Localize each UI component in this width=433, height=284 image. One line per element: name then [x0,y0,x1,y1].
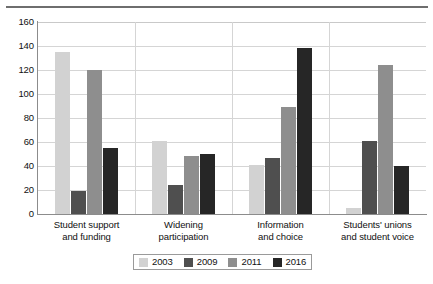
bar-2009-group-3 [265,158,280,214]
legend-entry-2011: 2011 [228,257,261,267]
bar-2011-group-1 [87,70,102,214]
y-tick-label-140: 140 [4,41,34,51]
group-separator-2 [232,22,233,214]
bar-2011-group-3 [281,107,296,214]
group-separator-1 [135,22,136,214]
bar-2016-group-2 [200,154,215,214]
group-separator-3 [329,22,330,214]
legend-entry-2003: 2003 [139,257,173,267]
legend-entry-2009: 2009 [184,257,218,267]
y-tick-label-120: 120 [4,65,34,75]
plot-area [38,22,426,214]
legend-label-2011: 2011 [241,257,261,267]
bar-2003-group-1 [55,52,70,214]
y-tick-label-0: 0 [4,209,34,219]
bar-2016-group-1 [103,148,118,214]
legend-entry-2016: 2016 [273,257,307,267]
legend-swatch-2016 [273,258,282,267]
bar-2009-group-4 [362,141,377,214]
x-category-label-4: Students' unionsand student voice [321,219,433,242]
legend-swatch-2009 [184,258,193,267]
y-tick-label-20: 20 [4,185,34,195]
y-tick-label-100: 100 [4,89,34,99]
x-label-line: Students' unions [321,219,433,231]
legend-label-2009: 2009 [197,257,218,267]
y-tick-label-40: 40 [4,161,34,171]
y-tick-label-60: 60 [4,137,34,147]
bar-2003-group-4 [346,208,361,214]
y-axis-tick-labels: 020406080100120140160 [0,22,34,214]
bar-chart-figure: 020406080100120140160 2003200920112016 S… [0,0,433,284]
bar-2011-group-2 [184,156,199,214]
legend-swatch-2011 [228,258,237,267]
bar-2009-group-1 [71,191,86,214]
legend-swatch-2003 [139,258,148,267]
chart-legend: 2003200920112016 [133,254,312,270]
bar-2016-group-3 [297,48,312,214]
bar-2003-group-3 [249,165,264,214]
y-tick-label-80: 80 [4,113,34,123]
legend-label-2003: 2003 [152,257,173,267]
bar-2011-group-4 [378,65,393,214]
bar-2016-group-4 [394,166,409,214]
bar-2003-group-2 [152,141,167,214]
y-tick-label-160: 160 [4,17,34,27]
top-divider-rule [6,6,428,8]
x-label-line: and student voice [321,231,433,243]
legend-label-2016: 2016 [286,257,307,267]
x-axis-line [37,214,427,215]
bar-2009-group-2 [168,185,183,214]
